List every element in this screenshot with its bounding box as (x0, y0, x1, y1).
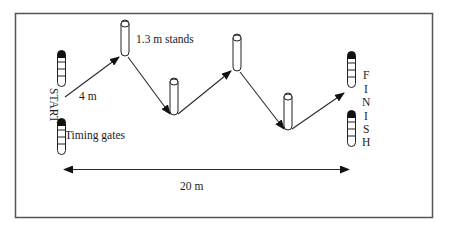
finish-letter: F (363, 69, 369, 81)
stands-label: 1.3 m stands (136, 33, 194, 45)
diagram-frame (16, 14, 433, 218)
timing-gates-label: Timing gates (65, 129, 125, 142)
finish-letter: N (362, 96, 371, 108)
stand-1-top (121, 21, 129, 27)
arrow-stand-4-to-finish (292, 93, 344, 129)
arrow-stand-2-to-stand-3 (178, 71, 231, 114)
first-leg-label: 4 m (79, 90, 97, 102)
diagram-canvas: START F (0, 0, 449, 231)
start-gate-top (58, 51, 66, 87)
start-label: START (48, 88, 60, 123)
stand-4-top (284, 94, 292, 100)
finish-gate-bottom (348, 111, 356, 147)
finish-label: F I N I S H (362, 69, 371, 148)
total-length-label: 20 m (180, 180, 203, 192)
course-diagram: START F (0, 0, 449, 231)
finish-letter: S (363, 123, 369, 135)
arrow-stand-3-to-stand-4 (240, 72, 284, 129)
finish-gate-top (348, 52, 356, 88)
finish-letter: H (362, 136, 370, 148)
stand-3-top (233, 35, 241, 41)
finish-letter: I (364, 83, 368, 95)
finish-letter: I (364, 110, 368, 122)
arrow-stand-1-to-stand-2 (128, 57, 170, 114)
stand-2-top (170, 79, 178, 85)
